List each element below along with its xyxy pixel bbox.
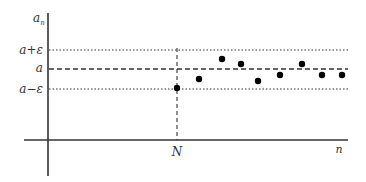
limit-label: a xyxy=(36,61,43,75)
point xyxy=(319,72,325,78)
point xyxy=(219,56,225,62)
y-axis-label: an xyxy=(33,11,45,27)
point xyxy=(255,78,261,84)
point xyxy=(238,61,244,67)
point xyxy=(339,72,345,78)
point xyxy=(299,61,305,67)
lower-bound-label: a−ε xyxy=(19,82,43,96)
point xyxy=(277,72,283,78)
x-axis-label: n xyxy=(335,143,342,156)
convergence-diagram: an a+ε a a−ε N n xyxy=(0,0,366,182)
point xyxy=(174,85,180,91)
upper-bound-label: a+ε xyxy=(19,43,43,57)
n-marker-label: N xyxy=(171,145,183,159)
sequence-points xyxy=(174,56,345,91)
point xyxy=(196,76,202,82)
